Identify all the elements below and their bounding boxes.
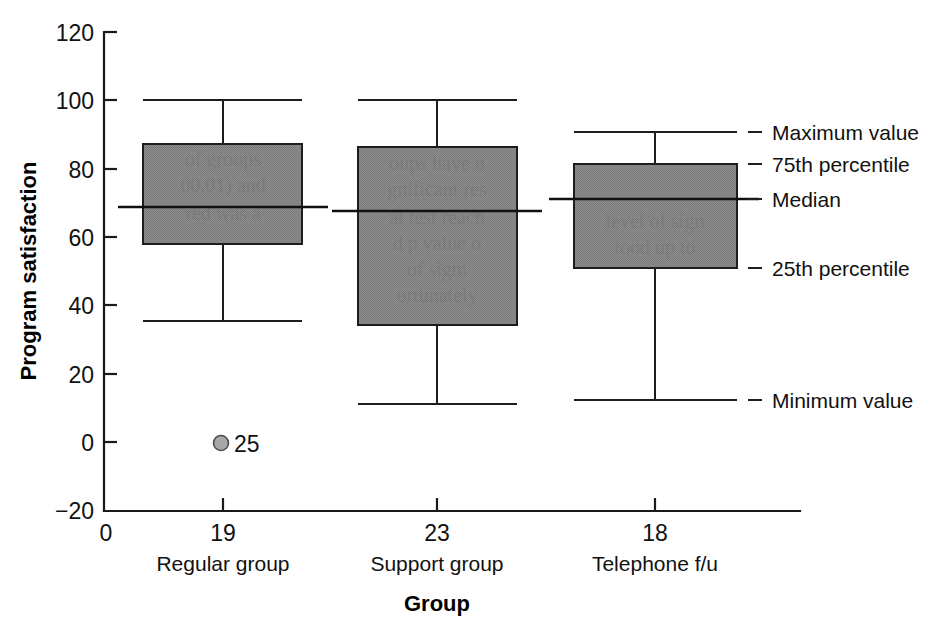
y-tick-120: 120 bbox=[56, 20, 117, 46]
x-tick-group-2: 23 Support group bbox=[370, 498, 503, 575]
x-tick-label-count-1: 19 bbox=[210, 520, 236, 546]
y-axis-title: Program satisfaction bbox=[16, 162, 41, 381]
x-tick-label-count-2: 23 bbox=[424, 520, 450, 546]
annotation-minimum-value: Minimum value bbox=[748, 389, 913, 412]
y-tick-label-60: 60 bbox=[68, 225, 94, 251]
x-axis-title: Group bbox=[404, 591, 470, 616]
boxplot-regular-group[interactable]: of groups 00.01) and red was a bbox=[118, 100, 328, 321]
annotations: Maximum value 75th percentile Median 25t… bbox=[748, 121, 919, 412]
boxplot-telephone-fu[interactable]: level of sign tood up to bbox=[549, 132, 759, 400]
y-tick-80: 80 bbox=[68, 157, 117, 183]
annotation-median: Median bbox=[748, 188, 841, 211]
x-group-label-3: Telephone f/u bbox=[592, 552, 718, 575]
y-tick-20: 20 bbox=[68, 362, 117, 388]
annotation-label-minimum-value: Minimum value bbox=[772, 389, 913, 412]
annotation-25th-percentile: 25th percentile bbox=[748, 257, 910, 280]
annotation-label-median: Median bbox=[772, 188, 841, 211]
y-tick-label-100: 100 bbox=[56, 88, 94, 114]
annotation-label-25th-percentile: 25th percentile bbox=[772, 257, 910, 280]
boxplot-support-group[interactable]: oups have n gnificant res at test reach … bbox=[332, 100, 542, 404]
boxplot-svg: 120 100 80 60 40 20 bbox=[0, 0, 926, 634]
y-tick-40: 40 bbox=[68, 293, 117, 319]
x-axis-ticks: 0 19 Regular group 23 Support group 18 T… bbox=[100, 498, 718, 575]
x-tick-group-1: 19 Regular group bbox=[156, 498, 289, 575]
x-tick-label-count-3: 18 bbox=[642, 520, 668, 546]
x-group-label-1: Regular group bbox=[156, 552, 289, 575]
outlier-marker-icon[interactable] bbox=[214, 436, 229, 451]
y-tick-label-80: 80 bbox=[68, 157, 94, 183]
boxplot-figure: 120 100 80 60 40 20 bbox=[0, 0, 926, 634]
y-tick-label-0: 0 bbox=[81, 430, 94, 456]
annotation-maximum-value: Maximum value bbox=[748, 121, 919, 144]
y-tick-100: 100 bbox=[56, 88, 117, 114]
y-tick-label-40: 40 bbox=[68, 293, 94, 319]
box-iqr-1[interactable] bbox=[143, 144, 302, 244]
y-tick-label-20: 20 bbox=[68, 362, 94, 388]
y-tick-label-neg20: −20 bbox=[55, 498, 94, 524]
y-tick-neg20: −20 bbox=[55, 498, 94, 524]
y-tick-0: 0 bbox=[81, 430, 117, 456]
outlier-regular-group[interactable]: 25 bbox=[214, 431, 260, 457]
y-axis-ticks: 120 100 80 60 40 20 bbox=[55, 20, 117, 524]
box-iqr-2[interactable] bbox=[358, 147, 517, 325]
annotation-label-75th-percentile: 75th percentile bbox=[772, 153, 910, 176]
outlier-label: 25 bbox=[234, 431, 260, 457]
annotation-label-maximum-value: Maximum value bbox=[772, 121, 919, 144]
annotation-75th-percentile: 75th percentile bbox=[748, 153, 910, 176]
y-tick-60: 60 bbox=[68, 225, 117, 251]
x-origin-label: 0 bbox=[100, 520, 113, 546]
box-iqr-3[interactable] bbox=[574, 164, 737, 268]
y-tick-label-120: 120 bbox=[56, 20, 94, 46]
x-group-label-2: Support group bbox=[370, 552, 503, 575]
x-tick-group-3: 18 Telephone f/u bbox=[592, 498, 718, 575]
